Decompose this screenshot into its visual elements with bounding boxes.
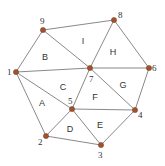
edge-8-6 [114, 20, 149, 68]
face-label-e: E [97, 120, 103, 130]
node-label-2: 2 [38, 137, 43, 147]
node-label-1: 1 [7, 67, 12, 77]
node-3 [98, 142, 103, 147]
edge-4-3 [101, 110, 135, 145]
edge-7-5 [72, 68, 90, 109]
node-label-7: 7 [89, 74, 94, 84]
edge-1-9 [16, 30, 43, 72]
edge-1-7 [16, 68, 90, 72]
edge-9-8 [43, 20, 114, 30]
node-1 [13, 69, 18, 74]
face-label-h: H [110, 47, 117, 57]
edge-8-7 [90, 20, 114, 68]
node-label-8: 8 [118, 10, 123, 20]
edge-7-4 [90, 68, 135, 110]
node-6 [146, 65, 151, 70]
face-label-g: G [119, 80, 126, 90]
node-7 [87, 65, 92, 70]
edge-5-4 [72, 109, 135, 110]
edge-3-2 [46, 136, 101, 145]
node-label-6: 6 [152, 63, 157, 73]
mesh-canvas: ABCDEFGHI 123456789 [0, 0, 165, 166]
face-label-b: B [42, 52, 48, 62]
node-9 [40, 27, 45, 32]
face-label-c: C [60, 82, 67, 92]
node-8 [111, 17, 116, 22]
node-label-5: 5 [68, 96, 73, 106]
node-4 [132, 107, 137, 112]
node-2 [43, 133, 48, 138]
node-label-9: 9 [40, 16, 45, 26]
face-label-i: I [82, 36, 85, 46]
face-label-a: A [39, 98, 45, 108]
mesh-diagram: ABCDEFGHI 123456789 [0, 0, 165, 166]
node-5 [69, 106, 74, 111]
node-label-3: 3 [98, 150, 103, 160]
node-label-4: 4 [138, 110, 143, 120]
face-label-d: D [67, 124, 74, 134]
edge-6-4 [135, 68, 149, 110]
nodes-group: 123456789 [7, 10, 157, 160]
face-label-f: F [92, 92, 98, 102]
